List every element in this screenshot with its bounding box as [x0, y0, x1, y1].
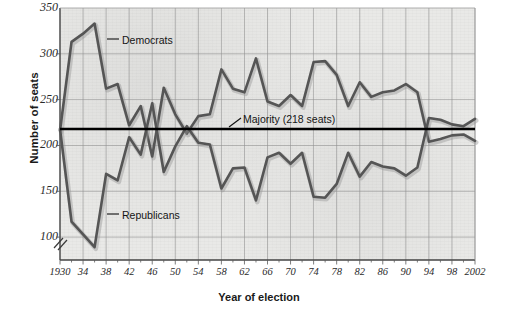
axis-break-icon — [53, 234, 67, 254]
annotation-republicans: Republicans — [122, 209, 180, 221]
annotation-democrats: Democrats — [122, 34, 173, 46]
annotation-majority: Majority (218 seats) — [243, 113, 335, 125]
chart-root: Number of seats Year of election 3503002… — [0, 0, 518, 315]
chart-canvas — [0, 0, 518, 315]
